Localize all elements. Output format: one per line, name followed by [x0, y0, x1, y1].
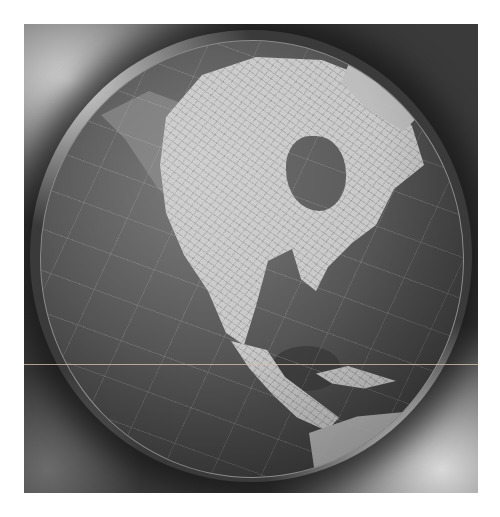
horizontal-scan-line [24, 364, 478, 365]
globe-shading [41, 41, 463, 477]
globe-photograph [24, 24, 478, 493]
globe [40, 40, 464, 478]
